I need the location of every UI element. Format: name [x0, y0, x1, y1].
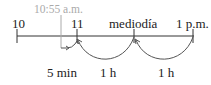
jump-label-1h-first: 1 h: [100, 66, 116, 79]
jump-label-5min: 5 min: [47, 66, 77, 79]
tick-label-1pm: 1 p.m.: [176, 17, 209, 30]
tick-label-10: 10: [12, 17, 25, 30]
jump-label-1h-second: 1 h: [158, 66, 174, 79]
tick-label-11: 11: [71, 17, 84, 30]
tick-label-noon: mediodía: [109, 17, 157, 30]
start-time-label: 10:55 a.m.: [34, 4, 83, 16]
jump-arc-1h-first: [78, 37, 134, 59]
jump-arc-1h-second: [136, 37, 193, 59]
